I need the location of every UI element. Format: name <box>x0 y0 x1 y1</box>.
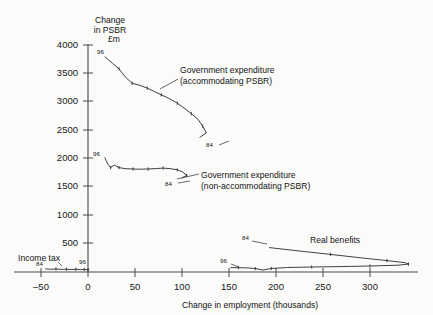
chart-svg: 4000 3500 3000 2500 2000 1500 1000 500 C… <box>0 0 433 315</box>
y-axis-tick-labels: 4000 3500 3000 2500 2000 1500 1000 500 <box>57 39 78 248</box>
y-tick-label-2000: 2000 <box>57 152 78 163</box>
y-tick-label-3500: 3500 <box>57 67 78 78</box>
annotation-accommodating-line1: Government expenditure <box>180 65 275 75</box>
y-tick-label-1000: 1000 <box>57 209 78 220</box>
point-label-acc-96: 96 <box>97 48 104 55</box>
x-tick-label-250: 250 <box>315 281 331 292</box>
leader-acc-84 <box>219 141 229 145</box>
point-label-non-96: 96 <box>93 150 100 157</box>
y-tick-label-500: 500 <box>62 237 78 248</box>
y-tick-label-1500: 1500 <box>57 180 78 191</box>
annotation-non-accommodating-line2: (non-accommodating PSBR) <box>201 181 311 191</box>
x-tick-label-150: 150 <box>221 281 237 292</box>
point-label-rb-84: 84 <box>242 234 249 241</box>
leader-rb-84 <box>252 241 267 244</box>
y-axis-title-line3: £m <box>108 34 120 44</box>
point-label-it-96: 96 <box>79 258 86 265</box>
point-label-acc-84: 84 <box>206 141 213 148</box>
y-axis-title-line1: Change <box>95 15 125 25</box>
leader-accommodating <box>160 79 178 89</box>
x-tick-label-100: 100 <box>174 281 190 292</box>
series-government-expenditure-non-accommodating <box>105 158 187 178</box>
series-real-benefits <box>231 248 409 270</box>
x-tick-label-m50: –50 <box>33 281 49 292</box>
annotation-accommodating-line2: (accommodating PSBR) <box>180 76 272 86</box>
series-income-tax <box>46 269 89 270</box>
y-tick-label-4000: 4000 <box>57 39 78 50</box>
leader-non-accommodating <box>177 174 199 179</box>
x-tick-label-200: 200 <box>268 281 284 292</box>
y-tick-label-2500: 2500 <box>57 124 78 135</box>
x-tick-label-50: 50 <box>130 281 141 292</box>
y-tick-label-3000: 3000 <box>57 95 78 106</box>
leader-non-84 <box>178 181 190 183</box>
annotation-non-accommodating: Government expenditure (non-accommodatin… <box>201 170 311 191</box>
x-tick-label-0: 0 <box>85 281 90 292</box>
chart-figure: 4000 3500 3000 2500 2000 1500 1000 500 C… <box>0 0 433 315</box>
y-axis-title: Change in PSBR £m <box>94 15 126 44</box>
annotation-non-accommodating-line1: Government expenditure <box>201 170 296 180</box>
point-label-non-84: 84 <box>165 180 172 187</box>
annotation-accommodating: Government expenditure (accommodating PS… <box>180 65 275 86</box>
point-label-rb-96: 96 <box>220 257 227 264</box>
point-label-it-84: 84 <box>36 260 43 267</box>
x-axis-tick-labels: –50 0 50 100 150 200 250 300 <box>33 281 378 292</box>
annotation-real-benefits: Real benefits <box>310 235 360 245</box>
x-tick-label-300: 300 <box>362 281 378 292</box>
x-axis-title: Change in employment (thousands) <box>182 300 318 310</box>
leader-rb-96 <box>231 264 239 267</box>
